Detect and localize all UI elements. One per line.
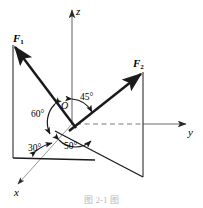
angle-arc-60 (47, 104, 55, 134)
y-axis-label: y (188, 127, 193, 138)
diagram-canvas (0, 0, 203, 208)
angle-label-50: 50° (64, 142, 77, 152)
force-label-F2: F2 (133, 58, 144, 69)
force-vector-F2 (69, 74, 141, 131)
angle-label-30: 30° (28, 144, 41, 154)
angle-label-60: 60° (31, 110, 44, 120)
force-vector-F1 (15, 47, 76, 128)
force-label-F1-subscript: 1 (20, 38, 24, 46)
axis-x (18, 124, 72, 184)
angle-label-45: 45° (80, 93, 93, 103)
force-label-F2-subscript: 2 (140, 63, 144, 71)
origin-label: O (61, 101, 68, 111)
left-plane-bottom-edge (13, 158, 95, 160)
figure-caption: 图 2-1 图 (0, 193, 203, 206)
z-axis-label: z (76, 6, 80, 17)
right-plane-bottom-edge (55, 131, 143, 177)
x-axis-line (18, 124, 72, 184)
force-vector-diagram: z y x O F1 F2 60° 30° 45° 50° 图 2-1 图 (0, 0, 203, 208)
force-label-F1: F1 (13, 33, 24, 44)
